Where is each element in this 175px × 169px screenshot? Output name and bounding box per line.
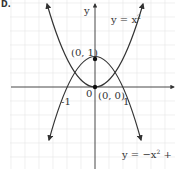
point-origin-label: (0, 0) [98,91,125,101]
origin-label: 0 [86,89,92,99]
curve1-label: y = x2 [111,14,141,25]
y-axis-label: y [84,6,90,16]
tick-pos1: 1 [123,97,129,107]
point-top-label: (0, 1) [71,48,98,58]
grid [10,0,175,169]
graph [0,0,175,169]
tick-neg1: -1 [61,97,71,107]
point-0-0 [93,85,97,89]
curve2-label: y = −x2 + 1 [122,149,175,160]
